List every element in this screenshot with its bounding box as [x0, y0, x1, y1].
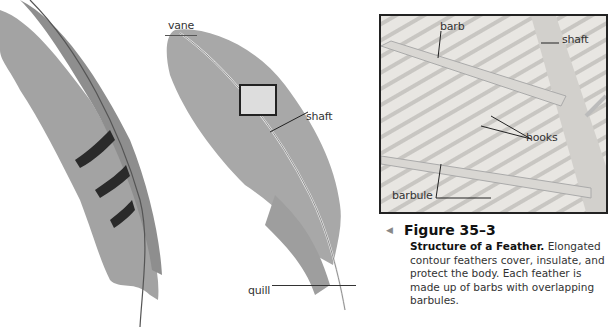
figure-number: Figure 35–3 — [404, 222, 496, 238]
quill-label: quill — [248, 279, 270, 298]
barb-label: barb — [440, 20, 464, 33]
hooks-label: hooks — [526, 131, 558, 144]
vane-label-group: vane — [168, 14, 197, 36]
shaft-leader-line — [270, 110, 310, 135]
caption-title: Structure of a Feather. — [410, 240, 544, 252]
shaft-label-inset: shaft — [562, 33, 588, 46]
figure-caption: Structure of a Feather. Elongated contou… — [410, 240, 610, 308]
figure-arrow-icon: ◀ — [386, 225, 393, 235]
quill-leader-line — [272, 285, 356, 286]
vane-underline — [165, 35, 197, 36]
barbule-label: barbule — [392, 189, 433, 202]
vane-label: vane — [168, 19, 194, 32]
